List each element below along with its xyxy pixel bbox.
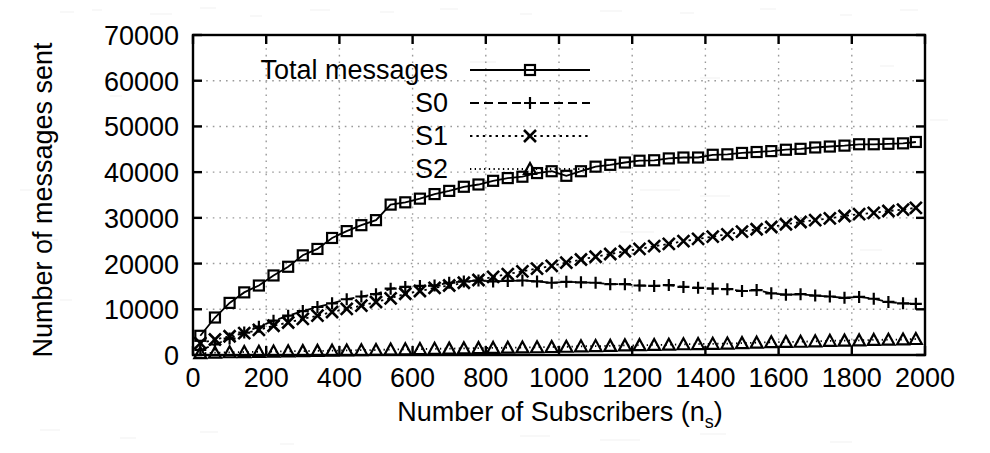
- y-tick-label: 10000: [104, 295, 179, 325]
- x-axis-title-main: Number of Subscribers (n: [397, 397, 705, 427]
- x-tick-label: 200: [244, 363, 289, 393]
- y-tick-label: 60000: [104, 67, 179, 97]
- chart-canvas: 0200400600800100012001400160018002000 01…: [0, 0, 990, 453]
- y-tick-label: 40000: [104, 158, 179, 188]
- x-tick-label: 1400: [675, 363, 735, 393]
- legend-label-total-messages: Total messages: [260, 55, 448, 85]
- y-axis-title: Number of messages sent: [28, 42, 58, 358]
- x-tick-label: 2000: [895, 363, 955, 393]
- x-axis-title-subscript: s: [705, 412, 714, 432]
- y-tick-label: 30000: [104, 204, 179, 234]
- x-tick-label: 1800: [822, 363, 882, 393]
- y-tick-label: 70000: [104, 21, 179, 51]
- x-tick-label: 400: [317, 363, 362, 393]
- x-tick-label: 1200: [602, 363, 662, 393]
- x-tick-label: 1000: [529, 363, 589, 393]
- legend-label-s2: S2: [415, 154, 448, 184]
- x-tick-label: 1600: [749, 363, 809, 393]
- x-axis-title: Number of Subscribers (ns): [397, 397, 723, 432]
- x-tick-label: 800: [463, 363, 508, 393]
- y-tick-label: 0: [164, 341, 179, 371]
- x-tick-label: 600: [390, 363, 435, 393]
- figure-container: 0200400600800100012001400160018002000 01…: [0, 0, 990, 453]
- y-tick-label: 20000: [104, 250, 179, 280]
- y-tick-label: 50000: [104, 112, 179, 142]
- x-tick-label: 0: [185, 363, 200, 393]
- x-axis-title-close: ): [714, 397, 723, 427]
- legend-label-s0: S0: [415, 88, 448, 118]
- legend-label-s1: S1: [415, 121, 448, 151]
